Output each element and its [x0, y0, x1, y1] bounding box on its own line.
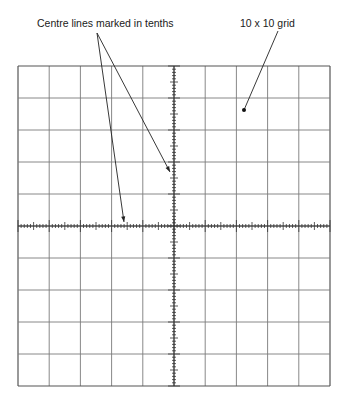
arrowhead-icon: [121, 216, 125, 222]
graticule-diagram: [0, 0, 349, 403]
centre-line-ticks: [18, 66, 330, 386]
dot-marker-icon: [242, 108, 246, 112]
annotation-arrows: [97, 31, 278, 222]
annotation-leader-line: [97, 33, 170, 172]
arrowhead-icon: [166, 166, 170, 172]
